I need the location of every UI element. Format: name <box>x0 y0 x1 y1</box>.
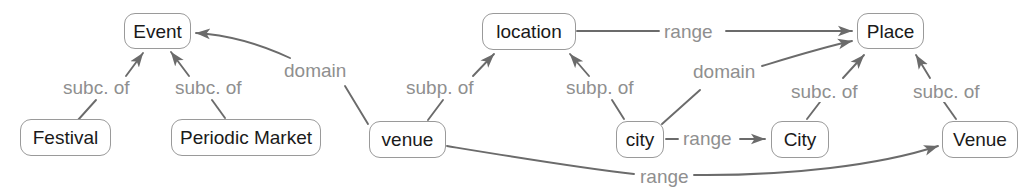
edge-city-subpropertyof-location-lower <box>612 100 624 119</box>
node-venue-property-label: venue <box>382 130 434 149</box>
node-event[interactable]: Event <box>124 13 191 49</box>
edge-label-location-range: range <box>661 21 716 42</box>
edge-city-domain-place-upper <box>762 41 852 66</box>
node-place-label: Place <box>867 22 915 41</box>
node-city-property-label: city <box>626 130 655 149</box>
edge-label-festival-subclassof: subc. of <box>60 77 133 98</box>
edge-city-subpropertyof-location-upper <box>570 54 589 76</box>
edge-label-city-domain: domain <box>690 61 758 82</box>
node-location-property-label: location <box>496 22 562 41</box>
node-festival[interactable]: Festival <box>20 119 111 156</box>
edge-cityclass-subclassof-place-upper <box>843 55 864 78</box>
edge-label-venue-subpropertyof: subp. of <box>403 77 477 98</box>
node-festival-label: Festival <box>33 128 98 147</box>
edge-festival-subclassof-event-upper <box>126 53 143 76</box>
node-city-property[interactable]: city <box>616 121 664 158</box>
edge-city-domain-place-lower <box>662 90 700 124</box>
edge-cityclass-subclassof-place-lower <box>807 102 820 119</box>
edge-label-city-range: range <box>680 128 735 149</box>
edge-periodicmarket-subclassof-event-lower <box>212 100 225 118</box>
node-place[interactable]: Place <box>857 13 924 49</box>
edge-venueclass-subclassof-place-upper <box>916 55 930 78</box>
node-event-label: Event <box>133 22 182 41</box>
edge-venue-subpropertyof-location-lower <box>428 100 443 120</box>
edge-label-venue-domain: domain <box>281 60 349 81</box>
edge-venue-domain-event-lower <box>345 86 368 124</box>
node-city-class-label: City <box>784 130 817 149</box>
edge-label-city-subpropertyof: subp. of <box>563 77 637 98</box>
node-periodic-market-label: Periodic Market <box>180 128 312 147</box>
node-venue-class-label: Venue <box>953 130 1007 149</box>
edge-venue-domain-event-upper <box>196 33 290 58</box>
edge-venue-subpropertyof-location-upper <box>473 54 494 76</box>
node-periodic-market[interactable]: Periodic Market <box>171 119 321 156</box>
edge-label-periodicmarket-subclassof: subc. of <box>172 77 245 98</box>
edge-label-cityclass-subclassof: subc. of <box>788 81 861 102</box>
node-venue-property[interactable]: venue <box>369 121 446 158</box>
node-venue-class[interactable]: Venue <box>942 121 1018 158</box>
edge-venueclass-subclassof-place-lower <box>944 102 956 119</box>
edge-festival-subclassof-event-lower <box>78 100 96 120</box>
node-city-class[interactable]: City <box>771 121 829 158</box>
ontology-diagram: Event (two segments around the label) --… <box>0 0 1029 196</box>
node-location-property[interactable]: location <box>482 13 576 50</box>
edge-venue-range-venueclass-left <box>447 146 634 174</box>
edge-label-venue-range: range <box>637 166 692 187</box>
edge-periodicmarket-subclassof-event-upper <box>171 52 189 76</box>
edge-label-venueclass-subclassof: subc. of <box>910 81 983 102</box>
